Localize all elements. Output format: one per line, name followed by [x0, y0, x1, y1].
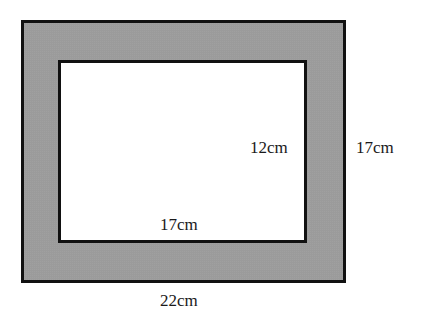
outer-height-label: 17cm: [356, 139, 394, 156]
inner-height-label: 12cm: [250, 139, 288, 156]
outer-width-label: 22cm: [160, 292, 198, 309]
inner-width-label: 17cm: [160, 216, 198, 233]
